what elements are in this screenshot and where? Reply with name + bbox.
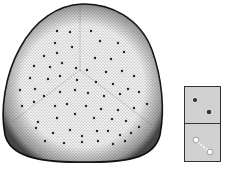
inset-top	[185, 87, 221, 124]
illustration-canvas	[0, 0, 225, 169]
inset-bottom	[185, 124, 221, 162]
pollen-grain	[3, 4, 162, 162]
